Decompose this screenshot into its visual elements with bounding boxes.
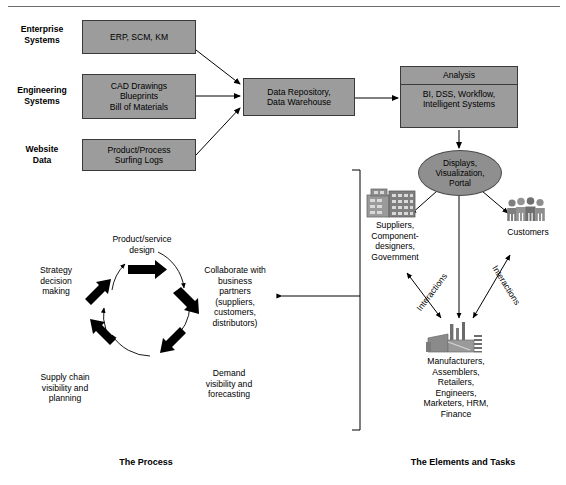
row-label-website-data: Website Data (6, 144, 78, 165)
process-step-label-product-service-design: Product/service design (88, 234, 196, 255)
row-label-enterprise-systems: Enterprise Systems (6, 24, 78, 45)
caption-the-process: The Process (66, 457, 226, 467)
box-analysis[interactable]: Analysis BI, DSS, Workflow, Intelligent … (400, 66, 518, 128)
ellipse-displays-visualization-portal[interactable]: Displays, Visualization, Portal (418, 150, 502, 196)
box-website-data[interactable]: Product/Process Surfing Logs (82, 139, 196, 171)
block-arrow-lower-left (90, 319, 116, 345)
arrow-website-to-repository (196, 108, 240, 155)
block-arrow-top (128, 260, 167, 279)
process-step-label-supply-chain-visibility: Supply chain visibility and planning (20, 372, 110, 404)
process-step-label-collaborate-partners: Collaborate with business partners (supp… (190, 265, 280, 328)
arrow-enterprise-to-repository (196, 50, 240, 84)
bracket-elements-to-process (282, 170, 360, 430)
label-manufacturers-group: Manufacturers, Assemblers, Retailers, En… (390, 356, 522, 419)
row-label-engineering-systems: Engineering Systems (6, 85, 78, 106)
office-building-icon (365, 189, 419, 217)
analysis-body: BI, DSS, Workflow, Intelligent Systems (401, 85, 517, 114)
box-data-repository[interactable]: Data Repository, Data Warehouse (243, 78, 355, 116)
process-block-arrows (85, 260, 199, 353)
label-suppliers-group: Suppliers, Component- designers, Governm… (352, 220, 438, 262)
factory-icon (424, 322, 486, 354)
people-group-icon (505, 196, 549, 222)
box-enterprise-systems[interactable]: ERP, SCM, KM (82, 20, 196, 54)
caption-the-elements-and-tasks: The Elements and Tasks (378, 457, 548, 467)
analysis-title: Analysis (401, 67, 517, 85)
process-step-label-strategy-decision-making: Strategy decision making (18, 265, 94, 297)
block-arrow-lower-right (160, 327, 186, 353)
label-customers: Customers (492, 227, 564, 238)
process-step-label-demand-visibility: Demand visibility and forecasting (186, 368, 272, 400)
box-engineering-systems[interactable]: CAD Drawings Blueprints Bill of Material… (82, 74, 196, 119)
diagram-canvas: Enterprise Systems Engineering Systems W… (0, 0, 566, 485)
